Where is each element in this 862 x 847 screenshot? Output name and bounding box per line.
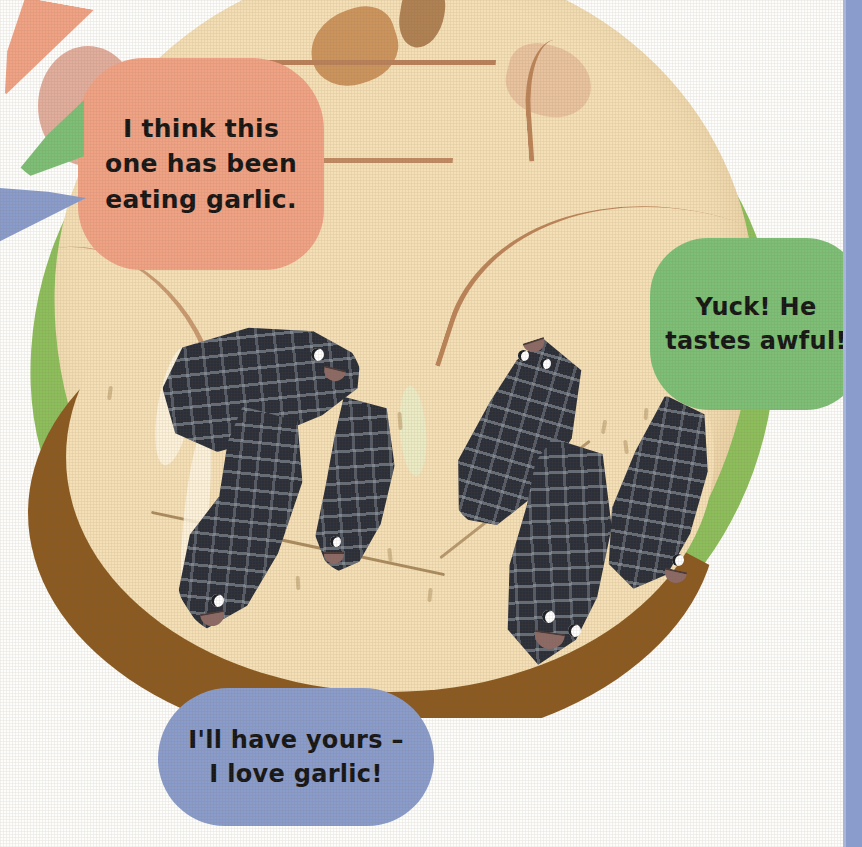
- page-edge-stripe: [843, 0, 862, 847]
- worm-eye: [311, 348, 324, 361]
- worm-eye: [568, 624, 581, 637]
- worm-mouth: [663, 568, 687, 585]
- worm-left: [183, 408, 323, 638]
- worm-center-left: [308, 396, 408, 576]
- speech-bubble-love-garlic: I'll have yours – I love garlic!: [158, 688, 434, 826]
- speech-bubble-garlic: I think this one has been eating garlic.: [78, 58, 324, 270]
- illustration-stage: I think this one has been eating garlic.…: [0, 0, 862, 847]
- speech-bubble-garlic-text: I think this one has been eating garlic.: [99, 111, 303, 218]
- worm-eye: [518, 350, 529, 361]
- worm-eye: [542, 610, 555, 623]
- worm-body: [589, 388, 732, 604]
- worm-right: [606, 396, 716, 596]
- worm-eye: [211, 594, 224, 607]
- worm-eye: [540, 358, 551, 369]
- speech-bubble-yuck-text: Yuck! He tastes awful!: [659, 290, 852, 358]
- speech-bubble-yuck: Yuck! He tastes awful!: [650, 238, 862, 410]
- speech-bubble-love-garlic-text: I'll have yours – I love garlic!: [182, 723, 409, 791]
- worm-eye: [672, 554, 684, 566]
- worm-body: [302, 393, 414, 580]
- worm-eye: [330, 536, 341, 547]
